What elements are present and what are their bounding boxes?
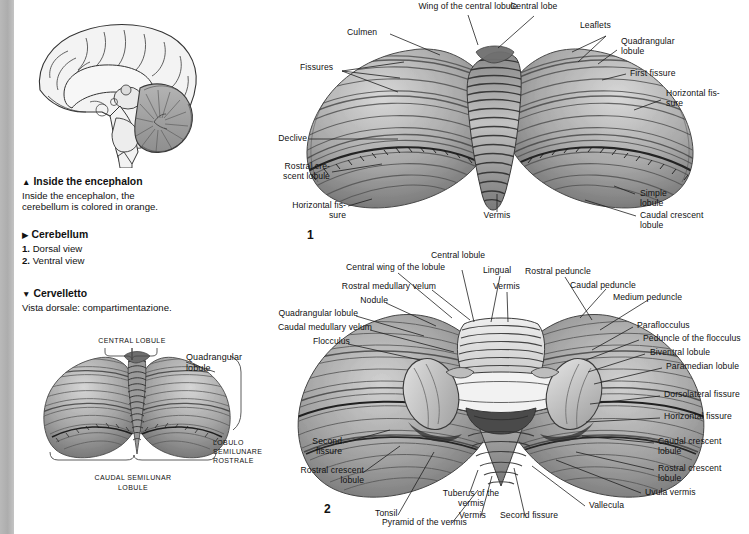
list-item-label: Dorsal view — [33, 243, 83, 254]
page-edge-band — [0, 0, 14, 534]
fig2-label-tuberus-of-vermis: Tuberus of the vermis — [432, 489, 510, 508]
fig2-label-paramedian-lobule: Paramedian lobule — [666, 362, 739, 372]
fig2-label-dorsolateral-fissure: Dorsolateral fissure — [664, 390, 740, 400]
list-item-label: Ventral view — [33, 255, 85, 266]
caption-inside-encephalon: ▲Inside the encephalon Inside the enceph… — [22, 176, 172, 213]
fig2-number: 2 — [324, 502, 331, 516]
fig2-label-nodule: Nodule — [320, 296, 388, 306]
fig1-label-first-fissure: First fissure — [630, 69, 676, 79]
caption-heading-text: Inside the encephalon — [33, 176, 142, 187]
list-item: 2. Ventral view — [22, 255, 172, 267]
caption-cervelletto: ▼Cervelletto Vista dorsale: compartiment… — [22, 288, 172, 313]
fig2-label-caudal-crescent-lobule: Caudal crescent lobule — [658, 437, 744, 456]
caption-heading-row-3: ▼Cervelletto — [22, 288, 172, 301]
fig2-label-caudal-peduncle: Caudal peduncle — [570, 281, 636, 291]
fig2-label-rostral-crescent-lobule-left: Rostral crescent lobule — [276, 466, 364, 485]
fig2-label-tonsil: Tonsil — [375, 509, 398, 519]
caption-heading-text-3: Cervelletto — [33, 288, 87, 299]
fig3-label-central-lobule: Central lobule — [80, 336, 184, 346]
fig1-label-horizontal-fissure-left: Horizontal fis- sure — [266, 201, 346, 220]
fig3-label-caudal-semilunar-lobule: Caudal semilunar lobule — [78, 473, 188, 492]
triangle-right-icon: ▶ — [22, 229, 29, 242]
list-item-number: 1. — [22, 243, 30, 254]
fig1-label-declive: Declive — [245, 134, 307, 144]
triangle-down-icon: ▼ — [22, 288, 30, 301]
fig2-label-peduncle-of-flocculus: Peduncle of the flocculus — [643, 334, 741, 344]
brain-sagittal-figure — [28, 18, 208, 168]
fig2-label-biventral-lobule: Biventral lobule — [650, 348, 710, 358]
fig2-label-paraflocculus: Paraflocculus — [637, 321, 690, 331]
fig2-label-flocculus: Flocculus — [282, 337, 350, 347]
fig1-label-leaflets: Leaflets — [580, 21, 611, 31]
caption-heading-text-2: Cerebellum — [32, 229, 89, 240]
fig2-label-central-lobule: Central lobule — [431, 251, 485, 261]
fig1-label-horizontal-fissure-right: Horizontal fis- sure — [666, 89, 736, 108]
fig1-number: 1 — [307, 228, 314, 242]
fig1-label-rostral-crescent-lobule: Rostral cre- scent lobule — [252, 162, 330, 181]
caption-body-text-3: Vista dorsale: compartimentazione. — [22, 302, 172, 314]
fig1-label-fissures: Fissures — [300, 63, 333, 73]
fig2-label-rostral-peduncle: Rostral peduncle — [525, 267, 591, 277]
fig2-label-rostral-medullary-velum: Rostral medullary velum — [318, 282, 436, 292]
triangle-up-icon: ▲ — [22, 176, 30, 189]
fig2-label-central-wing-of-lobule: Central wing of the lobule — [346, 263, 445, 273]
fig1-label-caudal-crescent-lobule: Caudal crescent lobule — [640, 211, 728, 230]
fig2-label-uvula-vermis: Uvula vermis — [645, 488, 696, 498]
fig2-label-vermis-top: Vermis — [493, 282, 520, 292]
fig2-label-pyramid-of-vermis: Pyramid of the vermis — [382, 518, 467, 528]
fig2-label-horizontal-fissure: Horizontal fissure — [664, 412, 732, 422]
fig2-label-caudal-medullary-velum: Caudal medullary velum — [252, 323, 372, 333]
fig1-label-culmen: Culmen — [347, 28, 377, 38]
caption-body-text: Inside the encephalon, the cerebellum is… — [22, 190, 172, 213]
fig2-label-rostral-crescent-lobule-right: Rostral crescent lobule — [658, 464, 744, 483]
fig2-label-second-fissure-right: Second fissure — [500, 511, 558, 521]
fig1-label-vermis: Vermis — [472, 211, 522, 221]
fig3-label-quadrangular-lobule: Quadrangular lobule — [186, 352, 248, 374]
fig2-label-lingual: Lingual — [483, 266, 511, 276]
fig2-label-quadrangular-lobule: Quadrangular lobule — [258, 309, 358, 319]
fig1-label-central-lobe: Central lobe — [510, 2, 557, 12]
fig1-label-quadrangular-lobule: Quadrangular lobule — [621, 37, 681, 56]
fig1-label-simple-lobule: Simple lobule — [640, 189, 700, 208]
page-root: ▲Inside the encephalon Inside the enceph… — [0, 0, 749, 534]
caption-heading-row-2: ▶Cerebellum — [22, 229, 172, 242]
list-item: 1. Dorsal view — [22, 243, 172, 255]
caption-heading-row: ▲Inside the encephalon — [22, 176, 172, 189]
fig2-label-second-fissure-left: Second fissure — [290, 437, 342, 456]
caption-cerebellum: ▶Cerebellum 1. Dorsal view 2. Ventral vi… — [22, 229, 172, 267]
fig2-label-medium-peduncle: Medium peduncle — [613, 293, 682, 303]
list-item-number: 2. — [22, 255, 30, 266]
fig2-label-vallecula: Vallecula — [589, 501, 624, 511]
fig3-label-lobulo-semilunare-rostrale: Lobulo semilunare rostrale — [213, 438, 291, 465]
